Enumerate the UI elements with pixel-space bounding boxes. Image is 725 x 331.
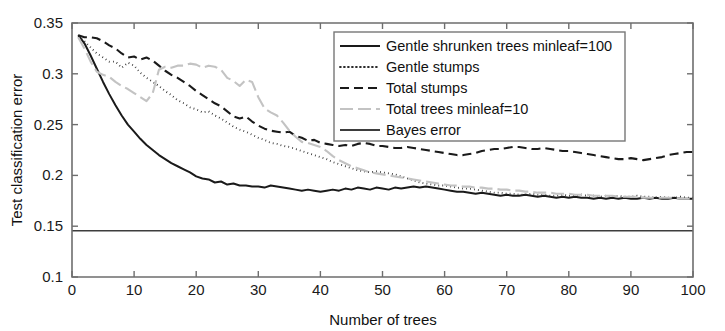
x-tick-label: 100 bbox=[680, 281, 705, 298]
y-tick-label: 0.15 bbox=[34, 217, 63, 234]
x-tick-label: 60 bbox=[436, 281, 453, 298]
x-tick-label: 30 bbox=[250, 281, 267, 298]
y-tick-label: 0.2 bbox=[42, 166, 63, 183]
legend-label-0: Gentle shrunken trees minleaf=100 bbox=[386, 38, 612, 54]
x-tick-label: 40 bbox=[312, 281, 329, 298]
x-tick-label: 80 bbox=[560, 281, 577, 298]
legend-layer: Gentle shrunken trees minleaf=100Gentle … bbox=[334, 32, 625, 141]
y-tick-label: 0.3 bbox=[42, 65, 63, 82]
x-axis-title: Number of trees bbox=[329, 311, 437, 328]
legend-label-2: Total stumps bbox=[386, 80, 467, 96]
y-tick-label: 0.35 bbox=[34, 14, 63, 31]
y-tick-label: 0.25 bbox=[34, 116, 63, 133]
legend-label-1: Gentle stumps bbox=[386, 59, 480, 75]
x-tick-label: 50 bbox=[374, 281, 391, 298]
y-axis-title: Test classification error bbox=[8, 74, 25, 227]
figure-container: 01020304050607080901000.10.150.20.250.30… bbox=[0, 0, 725, 331]
x-tick-label: 10 bbox=[126, 281, 143, 298]
x-tick-label: 90 bbox=[623, 281, 640, 298]
chart-canvas: 01020304050607080901000.10.150.20.250.30… bbox=[0, 0, 725, 331]
legend-label-3: Total trees minleaf=10 bbox=[386, 101, 528, 117]
y-tick-label: 0.1 bbox=[42, 268, 63, 285]
legend-label-4: Bayes error bbox=[386, 122, 461, 138]
x-tick-label: 0 bbox=[68, 281, 76, 298]
x-tick-label: 70 bbox=[498, 281, 515, 298]
x-tick-label: 20 bbox=[188, 281, 205, 298]
